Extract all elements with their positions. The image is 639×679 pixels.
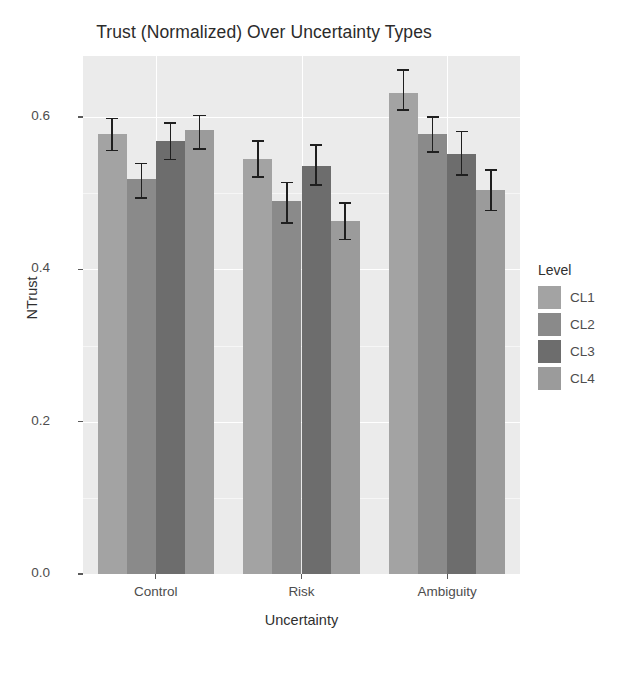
errorbar-line <box>344 203 346 240</box>
errorbar-cap-lower <box>193 148 205 150</box>
x-tick-mark <box>447 574 448 579</box>
errorbar-cap-lower <box>281 222 293 224</box>
errorbar-line <box>403 70 405 110</box>
legend-swatch-cl4 <box>538 367 561 390</box>
x-tick-mark <box>301 574 302 579</box>
errorbar-cap-upper <box>281 182 293 184</box>
errorbar-cap-lower <box>310 184 322 186</box>
legend-label-cl1: CL1 <box>570 290 595 305</box>
errorbar-line <box>199 115 201 149</box>
bar-control-cl1 <box>98 134 127 574</box>
legend: Level CL1CL2CL3CL4 <box>538 262 634 393</box>
errorbar-line <box>141 163 143 197</box>
errorbar-cap-lower <box>164 159 176 161</box>
bar-ambiguity-cl2 <box>418 134 447 574</box>
errorbar-line <box>111 119 113 151</box>
y-tick-mark <box>78 116 83 117</box>
chart-title: Trust (Normalized) Over Uncertainty Type… <box>0 22 528 43</box>
errorbar-cap-upper <box>339 202 351 204</box>
bar-risk-cl1 <box>243 159 272 574</box>
errorbar-line <box>315 145 317 185</box>
legend-item-cl3[interactable]: CL3 <box>538 339 634 363</box>
plot-panel <box>83 56 520 574</box>
chart-figure: Trust (Normalized) Over Uncertainty Type… <box>0 0 639 679</box>
legend-items: CL1CL2CL3CL4 <box>538 285 634 390</box>
legend-label-cl2: CL2 <box>570 317 595 332</box>
legend-label-cl3: CL3 <box>570 344 595 359</box>
errorbar-cap-lower <box>135 197 147 199</box>
y-tick-label: 0.6 <box>31 108 50 123</box>
errorbar-cap-upper <box>193 115 205 117</box>
legend-title: Level <box>538 262 634 278</box>
bar-ambiguity-cl3 <box>447 154 476 574</box>
legend-swatch-cl1 <box>538 286 561 309</box>
errorbar-cap-lower <box>456 174 468 176</box>
legend-swatch-cl2 <box>538 313 561 336</box>
bar-risk-cl3 <box>302 166 331 574</box>
errorbar-cap-lower <box>397 109 409 111</box>
legend-item-cl2[interactable]: CL2 <box>538 312 634 336</box>
errorbar-line <box>432 117 434 152</box>
errorbar-cap-upper <box>135 163 147 165</box>
y-tick-label: 0.2 <box>31 413 50 428</box>
bar-risk-cl2 <box>272 201 301 574</box>
errorbar-cap-upper <box>397 69 409 71</box>
errorbar-cap-lower <box>252 176 264 178</box>
legend-swatch-cl3 <box>538 340 561 363</box>
x-tick-label-risk: Risk <box>242 584 362 599</box>
errorbar-cap-upper <box>456 131 468 133</box>
legend-label-cl4: CL4 <box>570 371 595 386</box>
errorbar-cap-upper <box>106 118 118 120</box>
errorbar-line <box>170 123 172 160</box>
errorbar-cap-lower <box>485 210 497 212</box>
x-tick-label-ambiguity: Ambiguity <box>387 584 507 599</box>
errorbar-line <box>257 141 259 177</box>
errorbar-cap-upper <box>485 169 497 171</box>
y-tick-mark <box>78 573 83 574</box>
x-tick-mark <box>155 574 156 579</box>
errorbar-cap-upper <box>427 116 439 118</box>
errorbar-cap-upper <box>252 140 264 142</box>
y-tick-mark <box>78 421 83 422</box>
errorbar-line <box>461 131 463 174</box>
legend-item-cl4[interactable]: CL4 <box>538 366 634 390</box>
x-axis-title: Uncertainty <box>83 612 520 628</box>
errorbar-cap-upper <box>164 122 176 124</box>
errorbar-cap-lower <box>106 150 118 152</box>
errorbar-cap-lower <box>339 239 351 241</box>
errorbar-line <box>490 170 492 210</box>
legend-item-cl1[interactable]: CL1 <box>538 285 634 309</box>
y-tick-label: 0.0 <box>31 565 50 580</box>
bar-control-cl4 <box>185 130 214 574</box>
x-tick-label-control: Control <box>96 584 216 599</box>
errorbar-line <box>286 183 288 223</box>
y-axis-title: NTrust <box>24 258 40 338</box>
y-tick-mark <box>78 269 83 270</box>
errorbar-cap-lower <box>427 151 439 153</box>
bar-risk-cl4 <box>331 221 360 574</box>
bar-control-cl2 <box>127 179 156 574</box>
bar-ambiguity-cl1 <box>389 93 418 574</box>
bar-control-cl3 <box>156 141 185 574</box>
errorbar-cap-upper <box>310 144 322 146</box>
bar-ambiguity-cl4 <box>476 190 505 574</box>
